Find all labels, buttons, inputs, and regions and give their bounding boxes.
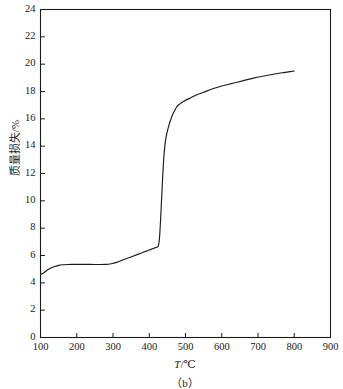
x-tick-label: 900 (311, 341, 343, 352)
y-tick-label: 22 (2, 30, 36, 41)
x-tick-label: 500 (166, 341, 206, 352)
x-axis-title: T/℃ (40, 358, 330, 371)
x-tick-label: 200 (57, 341, 97, 352)
y-tick-label: 2 (2, 303, 36, 314)
x-tick-label: 400 (129, 341, 169, 352)
y-tick-label: 4 (2, 276, 36, 287)
x-tick-label: 300 (93, 341, 133, 352)
x-axis-title-unit: /℃ (180, 358, 195, 370)
y-tick-label: 8 (2, 221, 36, 232)
x-tick-label: 600 (202, 341, 242, 352)
y-tick-label: 20 (2, 57, 36, 68)
y-tick-label: 24 (2, 3, 36, 14)
y-tick-label: 6 (2, 249, 36, 260)
y-tick-label: 18 (2, 85, 36, 96)
chart-background (0, 0, 343, 389)
chart-figure: 024681012141618202224 100200300400500600… (0, 0, 343, 389)
chart-plot-area (0, 0, 343, 389)
x-tick-label: 100 (21, 341, 61, 352)
x-tick-label: 800 (274, 341, 314, 352)
y-axis-title: 质量损失/% (6, 108, 22, 188)
x-tick-label: 700 (238, 341, 278, 352)
figure-caption: （b） (40, 374, 330, 389)
y-tick-label: 10 (2, 194, 36, 205)
